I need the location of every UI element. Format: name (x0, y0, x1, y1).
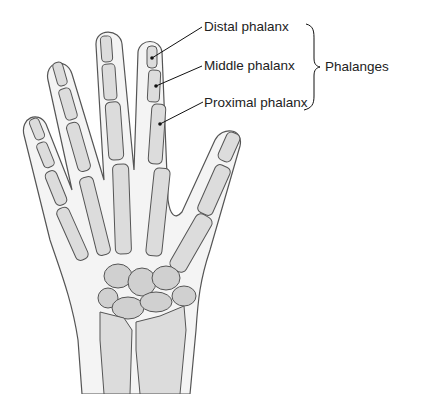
distal-leader (152, 27, 202, 58)
proximal-leader (160, 102, 203, 124)
label-phalanges: Phalanges (325, 59, 389, 75)
hand-anatomy-diagram: Distal phalanx Middle phalanx Proximal p… (0, 0, 434, 394)
ulna (100, 312, 132, 394)
label-distal-phalanx: Distal phalanx (204, 19, 289, 35)
label-middle-phalanx: Middle phalanx (204, 58, 295, 74)
label-proximal-phalanx: Proximal phalanx (204, 95, 308, 111)
